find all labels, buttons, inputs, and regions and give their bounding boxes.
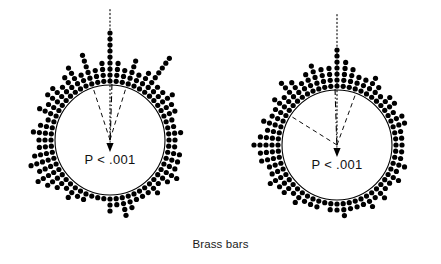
data-dot: [286, 99, 291, 104]
data-dot: [374, 186, 379, 191]
data-dot: [131, 84, 136, 89]
data-dot: [258, 134, 263, 139]
data-dot: [268, 181, 273, 186]
data-dot: [136, 73, 141, 78]
data-dot: [93, 68, 98, 73]
data-dot: [115, 67, 120, 72]
data-dot: [166, 144, 171, 149]
data-dot: [89, 81, 94, 86]
data-dot: [386, 172, 391, 177]
data-dot: [347, 85, 352, 90]
data-dot: [46, 102, 51, 107]
data-dot: [153, 75, 158, 80]
data-dot: [160, 176, 165, 181]
data-dot: [383, 99, 388, 104]
data-dot: [51, 170, 56, 175]
data-dot: [73, 185, 78, 190]
data-dot: [84, 64, 89, 69]
data-dot: [121, 74, 126, 79]
data-dot: [287, 108, 292, 113]
data-dot: [341, 207, 346, 212]
data-dot: [399, 136, 404, 141]
data-dot: [308, 202, 313, 207]
data-dot: [267, 164, 272, 169]
mean-vector-arrowhead: [106, 143, 113, 152]
data-dot: [399, 149, 404, 154]
data-dot: [151, 98, 156, 103]
data-dot: [394, 116, 399, 121]
data-dot: [369, 95, 374, 100]
data-dot: [107, 196, 112, 201]
data-dot: [49, 131, 54, 136]
data-dot: [364, 91, 369, 96]
data-dot: [291, 94, 296, 99]
data-dot: [170, 92, 175, 97]
data-dot: [392, 130, 397, 135]
data-dot: [310, 89, 315, 94]
data-dot: [263, 142, 268, 147]
data-dot: [147, 94, 152, 99]
data-dot: [107, 208, 112, 213]
data-dot: [361, 202, 366, 207]
data-dot: [83, 84, 88, 89]
data-dot: [314, 81, 319, 86]
data-dot: [134, 197, 139, 202]
data-dot: [69, 85, 74, 90]
data-dot: [279, 81, 284, 86]
data-dot: [328, 207, 333, 212]
data-dot: [54, 113, 59, 118]
data-dot: [32, 153, 37, 158]
data-dot: [172, 131, 177, 136]
data-dot: [361, 83, 366, 88]
data-dot: [316, 86, 321, 91]
data-dot: [126, 194, 131, 199]
data-dot: [149, 80, 154, 85]
data-dot: [291, 182, 296, 187]
data-dot: [341, 201, 346, 206]
data-dot: [348, 206, 353, 211]
data-dot: [64, 177, 69, 182]
data-dot: [165, 96, 170, 101]
data-dot: [364, 194, 369, 199]
data-dot: [275, 169, 280, 174]
data-dot: [353, 199, 358, 204]
data-dot: [171, 151, 176, 156]
data-dot: [273, 162, 278, 167]
data-dot: [34, 161, 39, 166]
data-dot: [265, 128, 270, 133]
data-dot: [78, 189, 83, 194]
data-dot: [142, 90, 147, 95]
data-dot: [36, 179, 41, 184]
data-dot: [278, 161, 283, 166]
data-dot: [49, 144, 54, 149]
data-dot: [305, 194, 310, 199]
data-dot: [276, 136, 281, 141]
data-dot: [281, 118, 286, 123]
data-dot: [137, 86, 142, 91]
data-dot: [286, 186, 291, 191]
data-dot: [316, 199, 321, 204]
data-dot: [107, 30, 112, 35]
data-dot: [164, 170, 169, 175]
data-dot: [257, 142, 262, 147]
data-dot: [131, 191, 136, 196]
data-dot: [342, 72, 347, 77]
data-dot: [322, 85, 327, 90]
figure-caption: Brass bars: [0, 238, 441, 250]
data-dot: [42, 137, 47, 142]
data-dot: [311, 69, 316, 74]
data-dot: [399, 114, 404, 119]
data-dot: [283, 85, 288, 90]
data-dot: [100, 67, 105, 72]
data-dot: [356, 75, 361, 80]
data-dot: [66, 195, 71, 200]
data-dot: [37, 106, 42, 111]
data-dot: [127, 76, 132, 81]
data-dot: [277, 101, 282, 106]
data-dot: [68, 94, 73, 99]
data-dot: [80, 53, 85, 58]
data-dot: [310, 196, 315, 201]
data-dot: [43, 166, 48, 171]
data-dot: [378, 103, 383, 108]
data-dots: [251, 47, 407, 218]
